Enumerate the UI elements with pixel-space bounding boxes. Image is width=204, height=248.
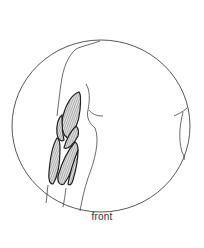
back-contour <box>174 108 187 160</box>
chest-fold <box>89 110 103 116</box>
arm-contour-inner <box>80 84 97 211</box>
view-label: front <box>0 211 204 222</box>
circle-frame <box>12 40 190 212</box>
muscle-group <box>49 92 81 185</box>
anatomy-figure: front <box>0 0 204 248</box>
